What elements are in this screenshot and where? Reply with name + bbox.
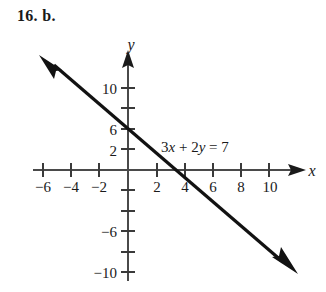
equation-coefficient-3: 3 bbox=[161, 139, 169, 155]
figure-page: 16. b. bbox=[0, 0, 326, 292]
y-tick-label-10: 10 bbox=[102, 81, 117, 97]
y-tick-label-2: 2 bbox=[110, 143, 118, 159]
x-axis-label: x bbox=[307, 162, 315, 179]
x-tick-label-6: 6 bbox=[209, 179, 217, 195]
line-arrowhead-end bbox=[272, 247, 298, 274]
y-tick-label-6: 6 bbox=[110, 122, 118, 138]
x-tick-label-neg4: −4 bbox=[63, 179, 79, 195]
x-tick-label-neg2: −2 bbox=[91, 179, 107, 195]
equation-equals-7: = 7 bbox=[205, 139, 229, 155]
x-tick-label-neg6: −6 bbox=[35, 179, 51, 195]
equation-coefficient-2: 2 bbox=[191, 139, 199, 155]
coordinate-graph: −6 −4 −2 2 4 6 8 10 10 6 2 −6 −10 y x 3x… bbox=[0, 0, 326, 292]
y-tick-label-neg10: −10 bbox=[94, 265, 117, 281]
x-tick-label-8: 8 bbox=[237, 179, 245, 195]
plotted-line bbox=[54, 65, 283, 262]
x-tick-label-10: 10 bbox=[263, 179, 278, 195]
x-tick-label-2: 2 bbox=[153, 179, 161, 195]
equation-plus: + bbox=[175, 139, 191, 155]
y-axis-label: y bbox=[125, 36, 135, 54]
y-tick-label-neg6: −6 bbox=[101, 224, 117, 240]
equation-var-y: y bbox=[197, 139, 206, 155]
line-equation-label: 3x + 2y = 7 bbox=[161, 139, 229, 155]
